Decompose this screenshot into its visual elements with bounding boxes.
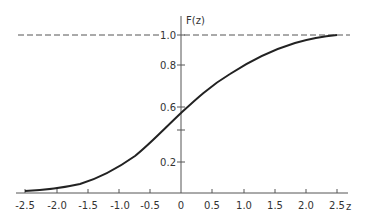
x-tick-label: 2.0 [298,200,314,211]
y-tick-label: 0.6 [160,102,176,113]
y-tick-labels: 0.2 0.6 0.8 1.0 [160,30,176,168]
x-tick-label: -0.5 [140,200,160,211]
x-tick-label: 1.5 [267,200,283,211]
x-tick-label: 0 [178,200,184,211]
x-tick-label: -1.5 [78,200,98,211]
x-tick-label: -2.5 [15,200,35,211]
x-tick-label: 0.5 [204,200,220,211]
x-tick-label: -2.0 [47,200,67,211]
y-tick-label: 0.2 [160,157,176,168]
cdf-chart: -2.5 -2.0 -1.5 -1.0 -0.5 0 0.5 1.0 1.5 2… [0,0,366,220]
x-axis-title: z [346,201,351,212]
y-tick-label: 1.0 [160,30,176,41]
y-tick-label: 0.8 [160,60,176,71]
y-axis-title: F(z) [186,15,205,26]
x-tick-labels: -2.5 -2.0 -1.5 -1.0 -0.5 0 0.5 1.0 1.5 2… [15,200,345,211]
x-tick-label: 2.5 [329,200,345,211]
x-tick-label: -1.0 [110,200,130,211]
x-tick-label: 1.0 [236,200,252,211]
